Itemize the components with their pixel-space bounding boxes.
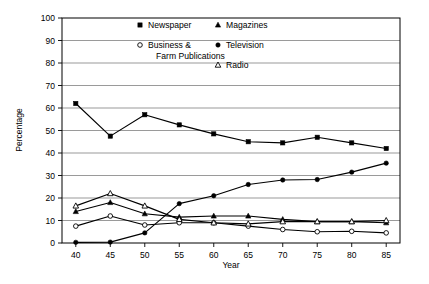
data-point-filled-circle	[216, 43, 220, 47]
x-axis-tick-labels: 40455055606570758085	[71, 250, 391, 260]
y-tick-label: 60	[46, 103, 56, 113]
data-point-filled-square	[74, 101, 78, 105]
legend-label-line2: Farm Publications	[156, 51, 225, 61]
y-tick-label: 40	[46, 148, 56, 158]
chart-legend: NewspaperBusiness &Farm PublicationsMaga…	[138, 20, 268, 70]
legend-item-radio[interactable]: Radio	[215, 60, 248, 70]
data-point-open-circle	[384, 231, 389, 236]
series-newspaper	[74, 101, 389, 150]
y-tick-label: 0	[50, 238, 55, 248]
x-tick-label: 45	[106, 250, 116, 260]
line-chart: 0102030405060708090100 40455055606570758…	[0, 0, 429, 284]
data-point-filled-circle	[281, 178, 285, 182]
y-axis-title: Percentage	[14, 108, 24, 152]
x-tick-label: 60	[209, 250, 219, 260]
legend-item-newspaper[interactable]: Newspaper	[138, 20, 192, 30]
data-point-filled-circle	[177, 201, 181, 205]
data-point-filled-square	[143, 113, 147, 117]
y-tick-label: 90	[46, 36, 56, 46]
data-point-filled-circle	[212, 194, 216, 198]
y-tick-label: 100	[41, 13, 55, 23]
data-point-filled-circle	[384, 161, 388, 165]
data-point-filled-square	[384, 146, 388, 150]
data-point-filled-triangle	[108, 200, 113, 205]
data-point-filled-square	[138, 23, 142, 27]
y-tick-label: 10	[46, 216, 56, 226]
data-point-filled-circle	[74, 240, 78, 244]
data-point-filled-circle	[350, 170, 354, 174]
data-point-filled-square	[281, 141, 285, 145]
legend-label: Newspaper	[148, 20, 192, 30]
data-point-open-circle	[108, 214, 113, 219]
series-line	[76, 104, 386, 149]
legend-label: Television	[226, 40, 264, 50]
y-tick-label: 20	[46, 193, 56, 203]
x-tick-label: 65	[244, 250, 254, 260]
x-tick-label: 70	[278, 250, 288, 260]
legend-item-magazines[interactable]: Magazines	[215, 20, 267, 30]
data-point-filled-circle	[315, 177, 319, 181]
y-tick-label: 30	[46, 171, 56, 181]
y-axis-ticks	[58, 18, 62, 243]
data-point-filled-circle	[108, 240, 112, 244]
data-point-filled-square	[246, 140, 250, 144]
x-tick-label: 75	[312, 250, 322, 260]
series-business-farm-publications	[73, 214, 388, 235]
data-point-open-circle	[142, 223, 147, 228]
x-tick-label: 80	[347, 250, 357, 260]
x-axis-title: Year	[222, 260, 239, 270]
data-point-open-triangle	[107, 191, 113, 196]
chart-canvas: 0102030405060708090100 40455055606570758…	[0, 0, 429, 284]
data-point-open-circle	[349, 229, 354, 234]
data-point-filled-square	[350, 141, 354, 145]
series-line	[76, 216, 386, 233]
data-point-filled-circle	[143, 231, 147, 235]
data-point-open-circle	[315, 229, 320, 234]
x-tick-label: 85	[381, 250, 391, 260]
data-point-filled-square	[315, 135, 319, 139]
legend-item-business[interactable]: Business &Farm Publications	[138, 40, 225, 61]
legend-label: Magazines	[226, 20, 268, 30]
x-tick-label: 55	[175, 250, 185, 260]
x-tick-label: 40	[71, 250, 81, 260]
legend-label: Radio	[226, 60, 249, 70]
data-point-filled-circle	[246, 182, 250, 186]
data-point-filled-square	[177, 123, 181, 127]
y-axis-tick-labels: 0102030405060708090100	[41, 13, 55, 248]
data-point-open-circle	[138, 43, 143, 48]
data-point-open-circle	[280, 227, 285, 232]
data-point-filled-square	[108, 134, 112, 138]
y-tick-label: 50	[46, 126, 56, 136]
legend-label: Business &	[148, 40, 191, 50]
data-point-open-circle	[73, 224, 78, 229]
data-point-filled-square	[212, 132, 216, 136]
data-point-filled-triangle	[215, 22, 220, 27]
x-axis-ticks	[76, 243, 386, 247]
series-line	[76, 163, 386, 242]
y-tick-label: 80	[46, 58, 56, 68]
legend-item-television[interactable]: Television	[216, 40, 264, 50]
x-tick-label: 50	[140, 250, 150, 260]
y-tick-label: 70	[46, 81, 56, 91]
series-layer	[73, 101, 389, 244]
